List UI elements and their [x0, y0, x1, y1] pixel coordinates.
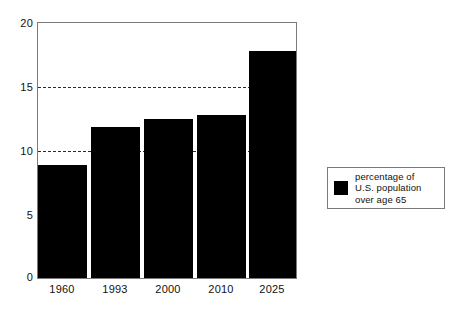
x-tick-label-1960: 1960 — [37, 283, 87, 295]
x-tick-label-2000: 2000 — [143, 283, 193, 295]
bar-1993 — [91, 127, 140, 278]
legend: percentage of U.S. population over age 6… — [327, 167, 445, 209]
bar-1960 — [38, 165, 87, 278]
figure: 20 15 10 5 0 1960 1993 2000 2010 2025 pe… — [0, 0, 453, 314]
plot-frame — [37, 22, 297, 279]
y-tick-label-10: 10 — [0, 146, 33, 157]
x-tick-label-2025: 2025 — [247, 283, 297, 295]
x-axis: 1960 1993 2000 2010 2025 — [37, 283, 297, 299]
bar-2000 — [144, 119, 193, 278]
y-tick-label-20: 20 — [0, 18, 33, 29]
bar-2025 — [249, 51, 296, 278]
y-tick-label-5: 5 — [0, 210, 33, 221]
legend-swatch-icon — [334, 181, 348, 195]
plot-area — [38, 23, 296, 278]
y-tick-label-0: 0 — [0, 272, 33, 283]
x-tick-label-1993: 1993 — [90, 283, 140, 295]
y-tick-label-15: 15 — [0, 82, 33, 93]
x-tick-label-2010: 2010 — [196, 283, 246, 295]
y-axis: 20 15 10 5 0 — [0, 0, 33, 314]
bar-2010 — [197, 115, 246, 278]
legend-label: percentage of U.S. population over age 6… — [355, 171, 421, 206]
